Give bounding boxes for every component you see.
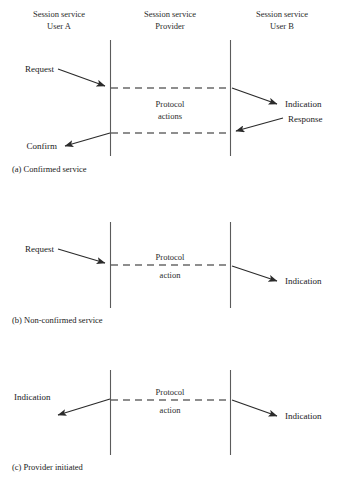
label-indication-a: Indication xyxy=(285,99,322,109)
label-response-a: Response xyxy=(288,114,323,124)
protocol-label-c-line2: action xyxy=(160,405,182,415)
protocol-label-b-line2: action xyxy=(160,270,182,280)
arrow-response-a xyxy=(236,118,283,131)
caption-panel-c: (c) Provider initiated xyxy=(12,462,84,472)
protocol-label-c-line1: Protocol xyxy=(156,387,185,397)
panel-provider-initiated: Indication Indication Protocol action (c… xyxy=(12,370,322,472)
arrow-indication-right-c xyxy=(232,400,277,416)
column-heading-user-a-line2: User A xyxy=(47,21,72,31)
column-heading-user-b-line1: Session service xyxy=(256,9,308,19)
arrow-confirm-a xyxy=(65,133,110,146)
protocol-label-a-line1: Protocol xyxy=(156,99,185,109)
column-heading-provider-line2: Provider xyxy=(155,21,184,31)
session-service-figure: Session service User A Session service P… xyxy=(0,0,341,482)
label-confirm-a: Confirm xyxy=(27,141,58,151)
label-indication-left-c: Indication xyxy=(14,392,51,402)
label-indication-right-c: Indication xyxy=(285,411,322,421)
figure-canvas: Session service User A Session service P… xyxy=(0,0,341,482)
label-request-a: Request xyxy=(25,64,54,74)
panel-confirmed-service: Request Indication Response Confirm Prot… xyxy=(12,40,323,174)
protocol-label-b-line1: Protocol xyxy=(156,252,185,262)
label-indication-b: Indication xyxy=(285,276,322,286)
column-headings: Session service User A Session service P… xyxy=(33,9,308,31)
label-request-b: Request xyxy=(25,244,54,254)
arrow-indication-left-c xyxy=(58,399,110,415)
column-heading-provider-line1: Session service xyxy=(144,9,196,19)
caption-panel-b: (b) Non-confirmed service xyxy=(12,315,103,325)
arrow-indication-a xyxy=(232,88,277,104)
panel-non-confirmed-service: Request Indication Protocol action (b) N… xyxy=(12,222,322,325)
column-heading-user-a-line1: Session service xyxy=(33,9,85,19)
arrow-indication-b xyxy=(232,266,277,281)
protocol-label-a-line2: actions xyxy=(158,111,182,121)
caption-panel-a: (a) Confirmed service xyxy=(12,164,87,174)
column-heading-user-b-line2: User B xyxy=(270,21,294,31)
arrow-request-a xyxy=(58,69,105,86)
arrow-request-b xyxy=(58,249,105,263)
